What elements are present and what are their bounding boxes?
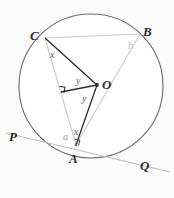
- angle-label-at-a-alpha: a: [63, 132, 68, 142]
- angle-label-at-a-tangent: x: [74, 127, 78, 137]
- angle-label-at-o-lower: y: [82, 94, 86, 104]
- point-label-q: Q: [140, 159, 149, 172]
- point-label-a: A: [69, 152, 78, 165]
- point-a-dot: [75, 144, 78, 147]
- point-label-o: O: [102, 78, 111, 91]
- center-point-dot: [95, 83, 99, 87]
- point-label-c: C: [30, 29, 39, 42]
- point-label-p: P: [9, 130, 17, 143]
- angle-label-at-c: x: [50, 50, 54, 60]
- angle-label-at-o-upper: y: [76, 76, 80, 86]
- angle-label-at-b: b: [128, 41, 133, 51]
- geometry-figure: C B O A P Q x y y x a b: [0, 0, 174, 198]
- point-label-b: B: [143, 25, 152, 38]
